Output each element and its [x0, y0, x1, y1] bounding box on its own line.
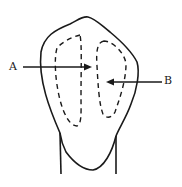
crown-outline	[41, 17, 139, 170]
label-a: A	[9, 61, 17, 72]
pulp-horn-a	[55, 35, 81, 126]
pulp-horn-b	[97, 41, 126, 117]
arrow-b-head	[106, 79, 114, 86]
arrow-a-head	[84, 64, 92, 71]
label-b: B	[164, 75, 172, 86]
tooth-diagram	[0, 0, 182, 187]
root-line-left	[60, 133, 61, 174]
